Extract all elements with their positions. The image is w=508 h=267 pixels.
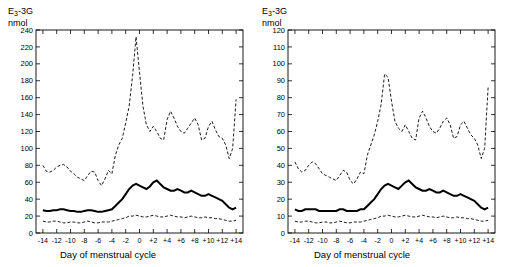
- svg-text:0: 0: [29, 229, 33, 238]
- svg-text:+2: +2: [401, 237, 409, 244]
- svg-text:-8: -8: [81, 237, 87, 244]
- svg-text:50: 50: [277, 144, 285, 153]
- svg-text:240: 240: [20, 26, 33, 35]
- svg-text:+12: +12: [468, 237, 480, 244]
- svg-text:+12: +12: [216, 237, 228, 244]
- svg-text:20: 20: [25, 212, 33, 221]
- svg-text:+6: +6: [429, 237, 437, 244]
- svg-text:100: 100: [20, 144, 33, 153]
- svg-text:-12: -12: [304, 237, 314, 244]
- svg-text:-14: -14: [290, 237, 300, 244]
- svg-text:-10: -10: [65, 237, 75, 244]
- svg-text:80: 80: [25, 161, 33, 170]
- svg-text:200: 200: [20, 59, 33, 68]
- svg-text:+10: +10: [203, 237, 215, 244]
- svg-text:+2: +2: [149, 237, 157, 244]
- svg-text:60: 60: [277, 127, 285, 136]
- svg-text:120: 120: [272, 26, 285, 35]
- svg-text:-4: -4: [361, 237, 367, 244]
- svg-text:10: 10: [277, 212, 285, 221]
- svg-text:+6: +6: [177, 237, 185, 244]
- svg-text:+10: +10: [455, 237, 467, 244]
- panel-left-plot: 020406080100120140160180200220240-14-12-…: [0, 0, 254, 267]
- svg-text:+14: +14: [482, 237, 494, 244]
- svg-text:-2: -2: [375, 237, 381, 244]
- svg-text:-10: -10: [317, 237, 327, 244]
- svg-text:0: 0: [390, 237, 394, 244]
- svg-text:0: 0: [281, 229, 285, 238]
- svg-text:20: 20: [277, 195, 285, 204]
- svg-text:80: 80: [277, 93, 285, 102]
- svg-text:-6: -6: [95, 237, 101, 244]
- svg-text:30: 30: [277, 178, 285, 187]
- panel-right-plot: 0102030405060708090100110120-14-12-10-8-…: [254, 0, 508, 267]
- chart-panel-left: E3-3G nmol 02040608010012014016018020022…: [0, 0, 254, 267]
- panel-left-xaxis-label: Day of menstrual cycle: [60, 249, 156, 260]
- svg-text:-4: -4: [109, 237, 115, 244]
- svg-text:-12: -12: [52, 237, 62, 244]
- svg-text:-6: -6: [347, 237, 353, 244]
- svg-text:110: 110: [273, 43, 285, 52]
- svg-text:90: 90: [277, 76, 285, 85]
- svg-text:0: 0: [138, 237, 142, 244]
- svg-text:+4: +4: [415, 237, 423, 244]
- svg-text:-14: -14: [38, 237, 48, 244]
- svg-text:180: 180: [20, 76, 33, 85]
- svg-text:220: 220: [20, 43, 33, 52]
- panel-right-xaxis-label: Day of menstrual cycle: [314, 249, 410, 260]
- svg-text:40: 40: [25, 195, 33, 204]
- figure-root: E3-3G nmol 02040608010012014016018020022…: [0, 0, 508, 267]
- svg-text:140: 140: [20, 110, 33, 119]
- svg-text:+8: +8: [443, 237, 451, 244]
- svg-text:-2: -2: [123, 237, 129, 244]
- svg-text:-8: -8: [333, 237, 339, 244]
- svg-text:+4: +4: [163, 237, 171, 244]
- svg-text:120: 120: [20, 127, 33, 136]
- svg-text:40: 40: [277, 161, 285, 170]
- svg-text:100: 100: [272, 59, 285, 68]
- chart-panel-right: E3-3G nmol 0102030405060708090100110120-…: [254, 0, 508, 267]
- svg-text:160: 160: [20, 93, 33, 102]
- svg-text:+8: +8: [191, 237, 199, 244]
- svg-text:70: 70: [277, 110, 285, 119]
- svg-text:60: 60: [25, 178, 33, 187]
- svg-text:+14: +14: [230, 237, 242, 244]
